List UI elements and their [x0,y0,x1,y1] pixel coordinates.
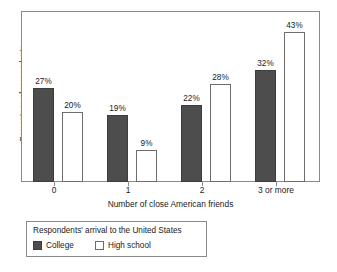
bar-0-college[interactable] [33,88,54,182]
bar-3-college[interactable] [255,70,276,182]
legend-swatch-college-icon [33,241,42,250]
legend-entry-highschool[interactable]: High school [95,241,151,250]
x-tick-label-2: 2 [200,185,205,195]
bar-3-highschool[interactable] [284,32,305,182]
bar-1-college[interactable] [107,115,128,182]
x-tick-label-0: 0 [52,185,57,195]
bar-chart-figure: Percentage of respondents 27% 20% 19% 9% [0,0,337,272]
bar-label-0-college: 27% [35,77,51,86]
bar-2-college[interactable] [181,105,202,182]
bar-label-3-highschool: 43% [286,21,302,30]
bar-group-3: 32% 43% [251,11,315,182]
bar-group-0: 27% 20% [29,11,93,182]
bar-2-highschool[interactable] [210,84,231,182]
chart-legend: Respondents' arrival to the United State… [26,221,207,257]
legend-swatch-highschool-icon [95,241,104,250]
bar-group-1: 19% 9% [103,11,167,182]
x-axis-title: Number of close American friends [21,199,320,209]
bar-label-3-college: 32% [257,59,273,68]
legend-entry-college[interactable]: College [33,241,74,250]
bar-label-0-highschool: 20% [64,101,80,110]
plot-area: 27% 20% 19% 9% 22% [21,11,320,182]
bar-label-2-college: 22% [183,94,199,103]
x-tick-label-1: 1 [126,185,131,195]
bar-1-highschool[interactable] [136,150,157,182]
bar-label-1-highschool: 9% [141,139,153,148]
x-tick-label-3: 3 or more [258,185,294,195]
bar-label-1-college: 19% [109,104,125,113]
legend-label-college: College [46,241,74,250]
bar-label-2-highschool: 28% [212,73,228,82]
bar-group-2: 22% 28% [177,11,241,182]
legend-label-highschool: High school [108,241,151,250]
legend-title: Respondents' arrival to the United State… [33,226,182,235]
bar-0-highschool[interactable] [62,112,83,182]
